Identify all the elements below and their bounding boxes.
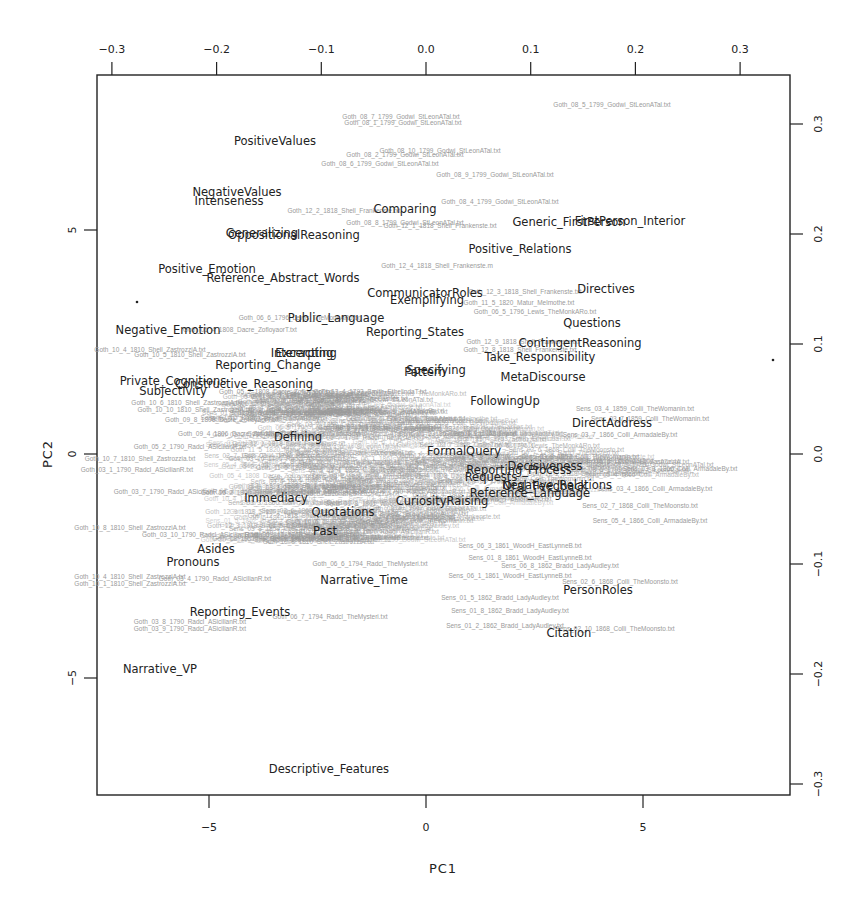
document-label: Goth_08_6_1799_Godwi_StLeonATal.txt	[321, 160, 439, 168]
variable-label: Defining	[274, 430, 322, 444]
variable-label: Comparing	[373, 202, 436, 216]
x-axis-title: PC1	[429, 861, 457, 876]
document-label: Goth_12_3_1818_Shell_Frankenste.txt	[468, 288, 581, 296]
document-label: Sens_01_8_1862_Bradd_LadyAudley.txt	[451, 607, 569, 615]
variable-label: Public_Language	[288, 311, 385, 325]
right-tick-label: 0.1	[812, 335, 825, 353]
document-label: Sens_03_4_1866_Colli_ArmadaleBy.txt	[598, 485, 713, 493]
document-label: Goth_03_10_1790_Radcl_ASicilianR.txt	[410, 430, 526, 438]
variable-label: Citation	[547, 626, 592, 640]
variable-label: Pronouns	[166, 555, 219, 569]
document-label: Goth_03_4_1790_Radcl_ASicilianR.txt	[159, 575, 272, 583]
variable-label: Reference_Abstract_Words	[206, 271, 359, 285]
variable-label: Intenseness	[195, 194, 264, 208]
variable-label: Positive_Relations	[469, 242, 572, 256]
variable-label: FollowingUp	[470, 394, 540, 408]
variable-label: Decisiveness	[508, 459, 583, 473]
bottom-axis: −505	[201, 795, 647, 834]
y-axis-title: PC2	[40, 440, 55, 468]
document-label: Goth_11_5_1820_Matur_Melmothe.txt	[464, 299, 575, 307]
variable-label: Asides	[197, 542, 234, 556]
variable-label: Narrative_VP	[123, 662, 197, 676]
right-axis: 0.30.20.10.0−0.1−0.2−0.3	[790, 115, 825, 797]
right-tick-label: 0.3	[812, 115, 825, 133]
variable-label: MetaDiscourse	[500, 370, 585, 384]
document-label: Goth_10_8_1810_Shell_ZastrozziA.txt	[74, 524, 185, 532]
top-tick-label: 0.0	[417, 43, 435, 56]
document-label: Goth_10_7_1810_Shell_Zastrozzia.txt	[85, 455, 196, 463]
document-label: Goth_09_8_1806_Dacre_ZofloyaorT.txt	[165, 416, 279, 424]
document-label: Sens_02_6_1868_Colli_TheMoonsto.txt	[270, 476, 386, 484]
top-tick-label: −0.1	[308, 43, 335, 56]
variable-label: Quotations	[312, 505, 375, 519]
left-tick-label: 5	[66, 227, 79, 234]
document-label: Goth_08_9_1799_Godwi_StLeonATal.txt	[436, 171, 554, 179]
variable-label: Immediacy	[244, 491, 308, 505]
top-tick-label: −0.2	[203, 43, 230, 56]
document-label: Goth_08_1_1799_Godwi_StLeonATal.txt	[344, 119, 462, 127]
document-label: Sens_03_8_1859_Colli_TheWomanin.txt	[398, 419, 516, 427]
bottom-tick-label: −5	[201, 821, 217, 834]
document-label: Sens_06_3_1861_WoodH_EastLynneB.txt	[458, 542, 581, 550]
document-label: Sens_03_8_1859_Colli_TheWomanin.txt	[243, 462, 361, 470]
variable-label: Generalizing	[226, 226, 298, 240]
variable-label: Reporting_States	[366, 325, 464, 339]
variable-label: Reporting_Change	[215, 358, 321, 372]
top-axis: −0.3−0.2−0.10.00.10.20.3	[99, 43, 749, 75]
variable-label: Descriptive_Features	[269, 762, 389, 776]
document-label: Goth_12_1_1818_Shell_Frankenste.txt	[383, 222, 496, 230]
document-label: Goth_12_4_1818_Shell_Frankenste.m	[381, 262, 493, 270]
document-label: Goth_06_6_1794_Radcl_TheMysteri.txt	[313, 560, 428, 568]
document-label: Goth_06_5_1796_Lewis_TheMonkARo.txt	[474, 308, 597, 316]
top-tick-label: −0.3	[99, 43, 126, 56]
document-label: Sens_02_7_1868_Colli_TheMoonsto.txt	[582, 502, 698, 510]
variable-label: Pattern	[404, 365, 445, 379]
document-label: Goth_10_10_1810_Shell_ZastrozziA.txt	[138, 406, 253, 414]
variable-label: Narrative_Time	[320, 573, 407, 587]
document-label: Sens_01_5_1862_Bradd_LadyAudley.txt	[441, 594, 559, 602]
document-label: Sens_03_7_1866_Colli_ArmadaleBy.txt	[563, 431, 678, 439]
document-label: Goth_05_2_1790_Radcl_ASicilianR.txt	[134, 443, 247, 451]
variable-label: FirstPerson_Interior	[575, 214, 686, 228]
variable-label: DirectAddress	[572, 416, 652, 430]
right-tick-label: 0.2	[812, 225, 825, 243]
document-label: Goth_03_7_1790_Radcl_ASicilianR.txt	[114, 488, 227, 496]
variable-label: PersonRoles	[563, 583, 632, 597]
variable-label: Directives	[577, 282, 635, 296]
document-label: Goth_03_1_1790_Radcl_ASicilianR.txt	[81, 466, 194, 474]
variable-label: Subjectivity	[139, 384, 207, 398]
right-tick-label: 0.0	[812, 445, 825, 463]
document-label: Goth_08_5_1799_Godwi_StLeonATal.txt	[553, 101, 671, 109]
top-tick-label: 0.3	[731, 43, 749, 56]
document-label: Sens_01_8_1861_WoodH_EastLynneB.txt	[468, 554, 591, 562]
variable-label: ContingentReasoning	[518, 336, 641, 350]
document-label: Sens_02_7_1868_Colli_TheMoonsto.txt	[204, 452, 320, 460]
left-tick-label: 0	[66, 451, 79, 458]
document-label: Sens_06_1_1861_WoodH_EastLynneB.txt	[448, 572, 571, 580]
document-label: Sens_03_3_1866_Colli_ArmadaleBy.txt	[623, 465, 738, 473]
document-label: Goth_03_9_1790_Radcl_ASicilianR.txt	[134, 625, 247, 633]
point-marker	[136, 301, 139, 304]
bottom-tick-label: 0	[423, 821, 430, 834]
right-tick-label: −0.2	[812, 661, 825, 688]
pca-biplot: −0.3−0.2−0.10.00.10.20.3 −505 50−5 0.30.…	[0, 0, 859, 904]
variable-label: FormalQuery	[427, 444, 501, 458]
top-tick-label: 0.1	[522, 43, 540, 56]
point-marker	[772, 359, 775, 362]
variable-label: Questions	[563, 316, 620, 330]
variable-label: Negative_Emotion	[116, 323, 221, 337]
variable-label: Take_Responsibility	[484, 350, 596, 364]
top-tick-label: 0.2	[627, 43, 645, 56]
variable-label: CuriosityRaising	[396, 494, 489, 508]
document-label: Sens_03_4_1859_Colli_TheWomanin.txt	[291, 534, 409, 542]
variable-label: Reporting_Events	[190, 605, 291, 619]
document-label: Goth_02_4_1789_Radcl_TheCastles.txt	[292, 395, 408, 403]
variable-label: PositiveValues	[234, 134, 316, 148]
document-label: Sens_05_4_1866_Colli_ArmadaleBy.txt	[593, 517, 708, 525]
left-tick-label: −5	[66, 670, 79, 686]
variable-label: Past	[313, 524, 337, 538]
document-label: Goth_08_4_1799_Godwi_StLeonATal.txt	[441, 198, 559, 206]
bottom-tick-label: 5	[640, 821, 647, 834]
document-label: Sens_03_4_1859_Colli_TheWomanin.txt	[576, 405, 694, 413]
document-label: Goth_03_10_1790_Radcl_ASicilianR.txt	[142, 531, 258, 539]
